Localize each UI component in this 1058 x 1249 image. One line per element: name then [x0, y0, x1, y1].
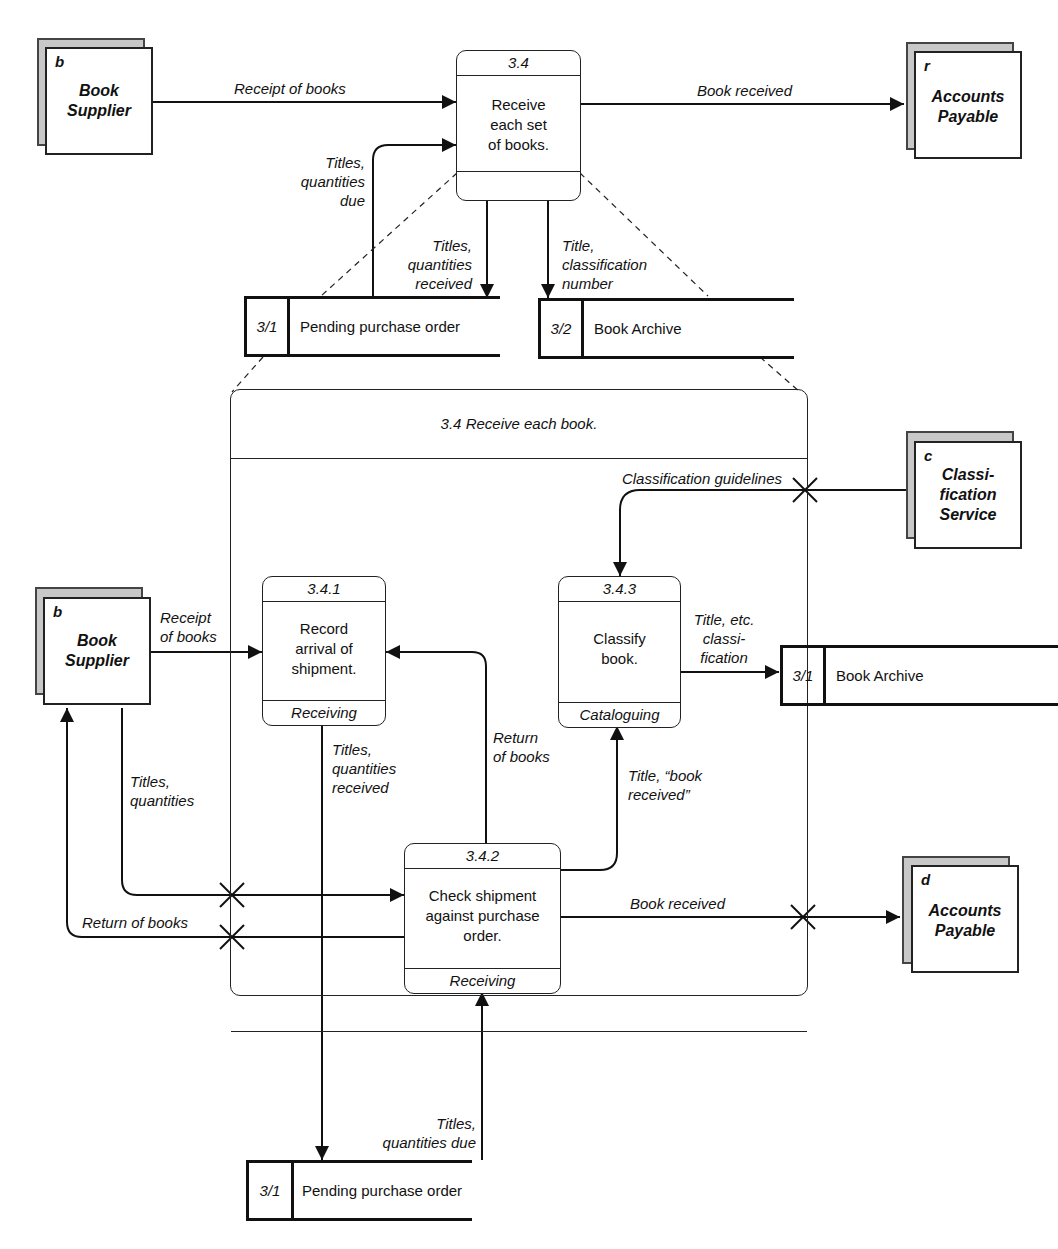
entity-id: c	[924, 447, 932, 464]
data-store-book-archive: 3/1 Book Archive	[780, 645, 1058, 706]
process-label: Check shipment against purchase order.	[405, 886, 560, 946]
process-3-4-3: 3.4.3 Classify book. Cataloguing	[558, 576, 681, 728]
flow-label-line: of books	[160, 627, 217, 646]
flow-label-line: fication	[684, 648, 764, 667]
flow-label-book-received: Book received	[630, 894, 725, 913]
process-label: Record arrival of shipment.	[263, 619, 385, 679]
process-label-line: order.	[405, 926, 560, 946]
expansion-title: 3.4 Receive each book.	[231, 414, 807, 433]
flow-label-line: Return	[493, 728, 550, 747]
process-id: 3.4.3	[559, 577, 680, 602]
entity-box: r Accounts Payable	[914, 51, 1022, 159]
entity-name-line: Classi-	[916, 465, 1020, 485]
entity-name-line: Service	[916, 505, 1020, 525]
flow-label-titles-quantities-due: Titles, quantities due	[290, 153, 365, 210]
flow-label-line: Title, “book	[628, 766, 702, 785]
process-id: 3.4.2	[405, 844, 560, 869]
flow-label-title-classification-number: Title, classification number	[562, 236, 647, 293]
store-name: Book Archive	[836, 648, 924, 703]
flow-label-return-of-books-up: Return of books	[493, 728, 550, 766]
frame-divider-bottom	[231, 1031, 807, 1032]
process-3-4-2: 3.4.2 Check shipment against purchase or…	[404, 843, 561, 994]
entity-id: b	[53, 603, 62, 620]
entity-name: Accounts Payable	[916, 87, 1020, 127]
flow-label-line: received”	[628, 785, 702, 804]
flow-label-line: quantities	[130, 791, 194, 810]
entity-box: c Classi- fication Service	[914, 441, 1022, 549]
process-3-4-1: 3.4.1 Record arrival of shipment. Receiv…	[262, 576, 386, 726]
entity-name: Book Supplier	[45, 631, 149, 671]
process-footer: Cataloguing	[559, 702, 680, 727]
entity-id: b	[55, 53, 64, 70]
entity-box: b Book Supplier	[45, 47, 153, 155]
entity-name-line: Book	[47, 81, 151, 101]
flow-label-titles-quantities-received: Titles, quantities received	[390, 236, 472, 293]
entity-name-line: Book	[45, 631, 149, 651]
frame-divider-top	[231, 458, 807, 459]
process-label-line: shipment.	[263, 659, 385, 679]
process-label-line: book.	[559, 649, 680, 669]
process-3-4: 3.4 Receive each set of books.	[456, 50, 581, 201]
flow-label-line: Title,	[562, 236, 647, 255]
process-footer: Receiving	[405, 968, 560, 993]
flow-label-receipt-of-books: Receipt of books	[234, 79, 346, 98]
flow-label-line: received	[332, 778, 396, 797]
entity-name-line: Accounts	[916, 87, 1020, 107]
process-label-line: each set	[457, 115, 580, 135]
entity-name: Classi- fication Service	[916, 465, 1020, 525]
flow-label-line: quantities	[290, 172, 365, 191]
store-id: 3/1	[780, 648, 826, 703]
flow-label-titles-quantities-due: Titles, quantities due	[370, 1114, 476, 1152]
flow-label-book-received: Book received	[697, 81, 792, 100]
flow-label-line: quantities due	[370, 1133, 476, 1152]
flow-label-return-of-books: Return of books	[82, 913, 188, 932]
store-name: Book Archive	[594, 301, 682, 356]
entity-id: r	[924, 57, 930, 74]
flow-label-line: Titles,	[390, 236, 472, 255]
process-label-line: Classify	[559, 629, 680, 649]
flow-label-line: Titles,	[370, 1114, 476, 1133]
process-label-line: Check shipment	[405, 886, 560, 906]
flow-label-line: received	[390, 274, 472, 293]
process-footer: Receiving	[263, 700, 385, 725]
process-label: Classify book.	[559, 629, 680, 669]
flow-label-receipt-of-books: Receipt of books	[160, 608, 217, 646]
process-label-line: Record	[263, 619, 385, 639]
flow-label-title-etc-classification: Title, etc. classi- fication	[684, 610, 764, 667]
flow-label-line: due	[290, 191, 365, 210]
flow-label-line: Title, etc.	[684, 610, 764, 629]
entity-name: Book Supplier	[47, 81, 151, 121]
process-footer	[457, 171, 580, 200]
process-label-line: against purchase	[405, 906, 560, 926]
flow-label-classification-guidelines: Classification guidelines	[560, 469, 782, 488]
process-label-line: arrival of	[263, 639, 385, 659]
entity-name-line: Accounts	[913, 901, 1017, 921]
entity-name-line: fication	[916, 485, 1020, 505]
data-store-pending-purchase-order: 3/1 Pending purchase order	[246, 1160, 472, 1221]
data-store-pending-purchase-order-top: 3/1 Pending purchase order	[244, 296, 500, 357]
flow-label-line: Titles,	[290, 153, 365, 172]
process-id: 3.4	[457, 51, 580, 76]
process-label: Receive each set of books.	[457, 95, 580, 155]
store-name: Pending purchase order	[300, 299, 460, 354]
store-id: 3/2	[538, 301, 584, 356]
process-id: 3.4.1	[263, 577, 385, 602]
store-id: 3/1	[244, 299, 290, 354]
flow-label-line: Titles,	[332, 740, 396, 759]
process-label-line: of books.	[457, 135, 580, 155]
flow-label-line: classification	[562, 255, 647, 274]
entity-box: b Book Supplier	[43, 597, 151, 705]
entity-id: d	[921, 871, 930, 888]
flow-label-line: Titles,	[130, 772, 194, 791]
store-name: Pending purchase order	[302, 1163, 462, 1218]
entity-name-line: Payable	[913, 921, 1017, 941]
data-store-book-archive-top: 3/2 Book Archive	[538, 298, 794, 359]
flow-label-line: of books	[493, 747, 550, 766]
store-id: 3/1	[246, 1163, 294, 1218]
entity-box: d Accounts Payable	[911, 865, 1019, 973]
flow-label-line: Receipt	[160, 608, 217, 627]
process-label-line: Receive	[457, 95, 580, 115]
entity-name: Accounts Payable	[913, 901, 1017, 941]
flow-label-titles-quantities-received: Titles, quantities received	[332, 740, 396, 797]
entity-name-line: Payable	[916, 107, 1020, 127]
